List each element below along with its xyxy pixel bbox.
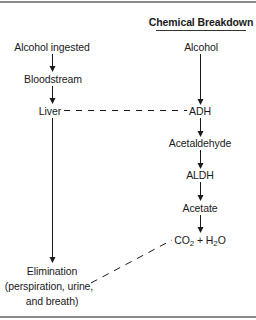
co2-text: CO: [174, 234, 190, 246]
node-bloodstream: Bloodstream: [24, 73, 82, 85]
node-alcohol: Alcohol: [184, 41, 218, 53]
node-elimination-detail-2: and breath): [26, 295, 79, 307]
node-aldh: ALDH: [186, 169, 214, 181]
node-acetate: Acetate: [183, 202, 218, 214]
node-co2-h2o: CO2 + H2O: [174, 234, 226, 246]
dashed-co2-to-elimination: [91, 240, 172, 283]
plus-h-text: + H: [194, 234, 213, 246]
node-acetaldehyde: Acetaldehyde: [169, 137, 231, 149]
node-adh: ADH: [189, 105, 211, 117]
node-alcohol-ingested: Alcohol ingested: [14, 41, 89, 53]
o-text: O: [218, 234, 226, 246]
node-elimination: Elimination: [27, 265, 77, 277]
node-liver: Liver: [39, 105, 61, 117]
node-elimination-detail-1: (perspiration, urine,: [5, 280, 93, 292]
